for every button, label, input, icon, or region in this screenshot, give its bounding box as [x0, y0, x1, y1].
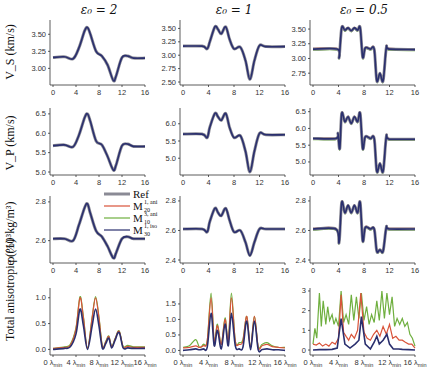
y-tick-label: 2.75	[291, 69, 306, 78]
x-tick-label: 16 λmin	[273, 358, 296, 368]
y-tick-label: 1.0	[166, 315, 176, 324]
x-tick-label: 0	[311, 266, 315, 275]
x-tick-label: 12	[255, 266, 263, 275]
series-ref	[183, 113, 285, 172]
x-tick-label: 8	[97, 266, 101, 275]
y-tick-label: 2.75	[161, 64, 176, 73]
x-tick-label: 12	[118, 266, 126, 275]
x-tick-label: 4	[336, 266, 340, 275]
x-tick-label: 4 λmin	[329, 358, 348, 368]
figure: ε₀ = 2 ε₀ = 1 ε₀ = 0.5 V_S (km/s) V_P (k…	[0, 0, 432, 376]
y-tick-label: 2.6	[166, 226, 176, 235]
legend-label-m10-ani: M	[133, 212, 143, 224]
panels-group: 3.003.253.5004812162.502.753.003.253.500…	[31, 20, 426, 368]
x-tick-label: 8	[232, 178, 236, 187]
x-tick-label: 4	[206, 88, 210, 97]
y-tick-label: 1	[302, 326, 306, 335]
x-tick-label: 4	[206, 266, 210, 275]
y-tick-label: 2.4	[166, 256, 176, 265]
y-tick-label: 3.50	[291, 25, 306, 34]
series-m30-iso	[313, 317, 415, 350]
x-tick-label: 16	[141, 266, 149, 275]
x-tick-label: 0	[51, 266, 55, 275]
panel-r1-c0: 5.05.56.06.50481216	[36, 108, 150, 187]
panel-r3-c1: 0.00.51.01.50 λmin4 λmin8 λmin12 λmin16 …	[166, 288, 297, 368]
y-tick-label: 0.0	[166, 346, 176, 355]
series-m20-ani	[183, 113, 285, 172]
x-tick-label: 0	[181, 178, 185, 187]
legend-sup-m20-ani: 1, ani	[144, 199, 158, 205]
panel-r0-c2: 2.753.003.253.500481216	[291, 20, 419, 97]
y-tick-label: 3.25	[161, 37, 176, 46]
y-tick-label: 6.5	[296, 107, 306, 116]
series-m30-iso	[53, 203, 145, 258]
ylabel-vp: V_P (km/s)	[3, 115, 17, 170]
x-tick-label: 4	[74, 88, 78, 97]
series-m30-iso	[53, 27, 145, 81]
x-tick-label: 16 λmin	[133, 358, 156, 368]
x-tick-label: 12	[118, 88, 126, 97]
panel-r3-c0: 0.00.51.00 λmin4 λmin8 λmin12 λmin16 λmi…	[36, 288, 157, 368]
y-tick-label: 2.8	[296, 196, 306, 205]
x-tick-label: 0	[181, 88, 185, 97]
x-tick-label: 12 λmin	[110, 358, 133, 368]
y-tick-label: 2.8	[166, 196, 176, 205]
panel-r0-c0: 3.003.253.500481216	[31, 20, 149, 97]
legend-sup-m10-ani: 3, ani	[144, 211, 158, 217]
x-tick-label: 12 λmin	[248, 358, 271, 368]
x-tick-label: 16	[141, 88, 149, 97]
x-tick-label: 16	[281, 88, 289, 97]
y-tick-label: 5.5	[166, 137, 176, 146]
x-tick-label: 4	[336, 178, 340, 187]
legend-label-m30-iso: M	[133, 224, 143, 236]
x-tick-label: 12	[118, 178, 126, 187]
series-m30-iso	[313, 26, 415, 81]
series-m20-ani	[313, 201, 415, 252]
y-tick-label: 2.8	[36, 197, 46, 206]
series-m20-ani	[183, 26, 285, 79]
y-tick-label: 3.00	[161, 51, 176, 60]
x-tick-label: 12	[255, 178, 263, 187]
x-tick-label: 0	[181, 266, 185, 275]
series-m10-ani	[53, 204, 145, 259]
series-ref	[53, 203, 145, 258]
x-tick-label: 8	[362, 88, 366, 97]
y-tick-label: 6.0	[296, 124, 306, 133]
x-tick-label: 4 λmin	[199, 358, 218, 368]
x-tick-label: 16	[141, 178, 149, 187]
x-tick-label: 16	[281, 178, 289, 187]
y-tick-label: 5.0	[296, 157, 306, 166]
ylabel-anisotropy: Total anisotropie (%)	[3, 239, 17, 341]
x-tick-label: 0 λmin	[304, 358, 323, 368]
panel-r3-c2: 01230 λmin4 λmin8 λmin12 λmin16 λmin	[302, 286, 427, 368]
y-tick-label: 5.0	[166, 154, 176, 163]
x-tick-label: 16	[281, 266, 289, 275]
x-tick-label: 4	[206, 178, 210, 187]
series-m10-ani	[183, 26, 285, 79]
panel-r1-c1: 5.05.56.00481216	[166, 108, 290, 187]
x-tick-label: 0	[311, 178, 315, 187]
x-tick-label: 12 λmin	[378, 358, 401, 368]
y-tick-label: 0.5	[166, 330, 176, 339]
panel-r0-c1: 2.502.753.003.253.500481216	[161, 20, 289, 97]
x-tick-label: 16	[411, 178, 419, 187]
x-tick-label: 12	[385, 266, 393, 275]
series-ref	[53, 114, 145, 171]
series-m30-iso	[313, 112, 415, 172]
y-tick-label: 3	[302, 286, 306, 295]
y-tick-label: 6.5	[36, 109, 46, 118]
x-tick-label: 12	[255, 88, 263, 97]
y-tick-label: 5.5	[36, 148, 46, 157]
x-tick-label: 8	[362, 178, 366, 187]
panel-r2-c2: 2.42.62.80481216	[296, 196, 420, 275]
y-tick-label: 3.00	[31, 64, 46, 73]
x-tick-label: 16 λmin	[403, 358, 426, 368]
series-m20-ani	[53, 203, 145, 258]
x-tick-label: 8	[232, 88, 236, 97]
x-tick-label: 0	[51, 178, 55, 187]
x-tick-label: 8 λmin	[225, 358, 244, 368]
x-tick-label: 0 λmin	[44, 358, 63, 368]
column-title-eps1: ε₀ = 1	[216, 3, 253, 17]
x-tick-label: 8	[232, 266, 236, 275]
x-tick-label: 16	[411, 266, 419, 275]
